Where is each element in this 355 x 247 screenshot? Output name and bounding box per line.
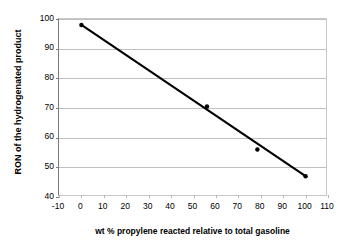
x-axis-title: wt % propylene reacted relative to total…	[58, 226, 327, 236]
y-axis-tick-label: 70	[28, 103, 54, 112]
y-axis-tick-label: 40	[28, 192, 54, 201]
x-axis-tick-mark	[328, 195, 329, 198]
data-layer	[59, 19, 328, 197]
y-axis-tick-label: 60	[28, 132, 54, 141]
y-axis-tick-label: 100	[28, 14, 54, 23]
x-axis-tick-label: 110	[312, 202, 342, 211]
y-axis-tick-label: 90	[28, 43, 54, 52]
trend-line	[81, 25, 305, 176]
y-axis-title: RON of the hydrogenated product	[13, 2, 23, 202]
data-point-marker	[303, 174, 307, 178]
y-axis-tick-label: 80	[28, 73, 54, 82]
y-axis-tick-label: 50	[28, 162, 54, 171]
data-point-marker	[205, 104, 209, 108]
chart-container: RON of the hydrogenated product 40506070…	[0, 0, 355, 247]
plot-area	[58, 18, 327, 196]
data-point-marker	[79, 23, 83, 27]
trend-line-segment	[81, 25, 305, 176]
data-point-marker	[255, 147, 259, 151]
